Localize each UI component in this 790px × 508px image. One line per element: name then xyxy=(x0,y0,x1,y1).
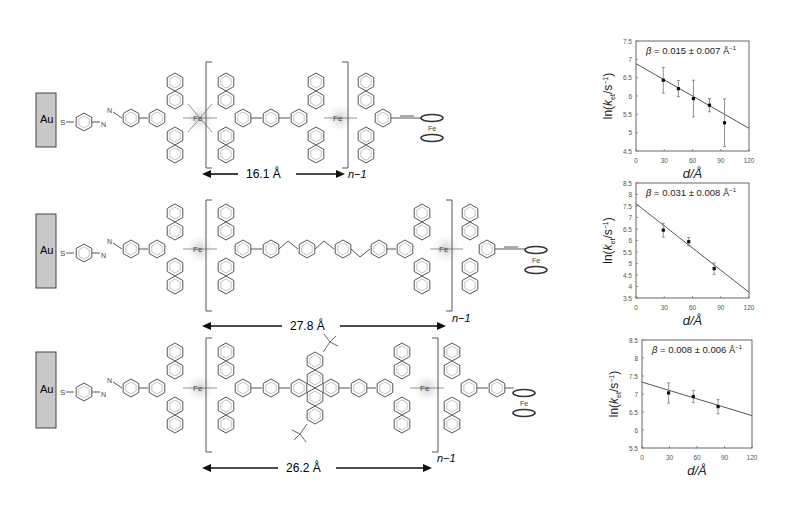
y-tick-label: 5.5 xyxy=(623,111,632,118)
chart-2: 3.544.555.566.577.588.50306090120d/Åln(k… xyxy=(601,180,755,329)
data-point xyxy=(687,240,690,243)
x-tick-label: 90 xyxy=(717,304,725,311)
chart-1: 4.555.566.577.50306090120d/Åln(ket/s−1)β… xyxy=(601,38,755,182)
y-tick-label: 3.5 xyxy=(623,295,632,302)
x-tick-label: 120 xyxy=(747,454,758,461)
x-tick-label: 60 xyxy=(689,304,697,311)
x-tick-label: 90 xyxy=(717,157,725,164)
molecule-row-2: Au S N N Fe xyxy=(36,200,547,333)
y-tick-label: 6.5 xyxy=(623,74,632,81)
y-tick-label: 6 xyxy=(628,93,632,100)
molecular-structures: Au S N N Fe Fe xyxy=(0,0,600,508)
data-point xyxy=(708,104,711,107)
y-tick-label: 6 xyxy=(634,427,638,434)
y-tick-label: 8 xyxy=(634,355,638,362)
azo-n-2: N xyxy=(107,107,112,114)
plot-frame xyxy=(636,183,749,298)
data-point xyxy=(692,97,695,100)
y-tick-label: 6.5 xyxy=(623,226,632,233)
x-tick-label: 120 xyxy=(744,157,755,164)
y-tick-label: 7 xyxy=(634,391,638,398)
molecule-row-1: Au S N N Fe Fe xyxy=(36,62,443,181)
x-tick-label: 90 xyxy=(721,454,729,461)
beta-annotation: β = 0.008 ± 0.006 Å−1 xyxy=(651,344,743,355)
iron-center-1: Fe xyxy=(193,384,203,393)
sulfur-label: S xyxy=(60,118,65,127)
iron-center-1: Fe xyxy=(193,245,203,254)
sulfur-label: S xyxy=(60,249,65,258)
electrode-label: Au xyxy=(40,244,53,256)
chart-3: 5.566.577.588.50306090120d/Åln(ket/s−1)β… xyxy=(607,337,758,479)
molecule-row-3: Au S N N Fe xyxy=(36,334,535,475)
y-axis-label: ln(ket/s−1) xyxy=(601,73,616,120)
y-tick-label: 8 xyxy=(628,191,632,198)
x-tick-label: 30 xyxy=(666,454,674,461)
electrode-label: Au xyxy=(40,113,53,125)
azo-n-2: N xyxy=(107,238,112,245)
x-tick-label: 30 xyxy=(661,304,669,311)
beta-annotation: β = 0.015 ± 0.007 Å−1 xyxy=(645,45,737,56)
data-point xyxy=(713,267,716,270)
y-tick-label: 6 xyxy=(628,237,632,244)
data-point xyxy=(662,229,665,232)
x-tick-label: 60 xyxy=(693,454,701,461)
electrode-label: Au xyxy=(40,383,53,395)
y-tick-label: 4.5 xyxy=(623,148,632,155)
data-point xyxy=(692,395,695,398)
y-tick-label: 5 xyxy=(628,129,632,136)
y-tick-label: 8.5 xyxy=(629,337,638,344)
distance-label: 26.2 Å xyxy=(286,460,321,475)
x-axis-label: d/Å xyxy=(683,166,703,181)
y-tick-label: 4.5 xyxy=(623,272,632,279)
fit-line xyxy=(642,382,752,415)
y-tick-label: 7.5 xyxy=(623,203,632,210)
azo-n-1: N xyxy=(101,121,106,128)
ferrocene-fe-label: Fe xyxy=(532,257,540,264)
data-point xyxy=(667,391,670,394)
y-tick-label: 7.5 xyxy=(623,38,632,45)
ferrocene-fe-label: Fe xyxy=(520,400,528,407)
beta-annotation: β = 0.031 ± 0.008 Å−1 xyxy=(645,187,737,198)
distance-label: 16.1 Å xyxy=(246,166,281,181)
x-axis-label: d/Å xyxy=(687,463,707,478)
x-tick-label: 0 xyxy=(640,454,644,461)
x-tick-label: 0 xyxy=(634,157,638,164)
distance-label: 27.8 Å xyxy=(290,318,325,333)
x-axis-label: d/Å xyxy=(683,313,703,328)
y-axis-label: ln(ket/s−1) xyxy=(607,371,622,418)
fit-line xyxy=(636,64,749,129)
y-axis-label: ln(ket/s−1) xyxy=(601,217,616,264)
y-tick-label: 8.5 xyxy=(623,180,632,187)
data-point xyxy=(677,87,680,90)
repeat-label: n−1 xyxy=(348,168,367,180)
data-point xyxy=(723,121,726,124)
iron-center-2: Fe xyxy=(333,114,343,123)
iron-center-2: Fe xyxy=(439,245,449,254)
sulfur-label: S xyxy=(60,388,65,397)
fit-line xyxy=(636,204,749,293)
data-point xyxy=(662,79,665,82)
plot-frame xyxy=(642,340,752,448)
x-tick-label: 0 xyxy=(634,304,638,311)
azo-n-1: N xyxy=(101,252,106,259)
x-tick-label: 120 xyxy=(744,304,755,311)
azo-n-2: N xyxy=(107,377,112,384)
iron-center-2: Fe xyxy=(420,384,430,393)
y-tick-label: 7.5 xyxy=(629,373,638,380)
y-tick-label: 6.5 xyxy=(629,409,638,416)
y-tick-label: 7 xyxy=(628,214,632,221)
y-tick-label: 5.5 xyxy=(629,445,638,452)
y-tick-label: 5 xyxy=(628,260,632,267)
azo-n-1: N xyxy=(101,391,106,398)
repeat-label: n−1 xyxy=(452,312,471,324)
y-tick-label: 4 xyxy=(628,283,632,290)
y-tick-label: 7 xyxy=(628,56,632,63)
x-tick-label: 60 xyxy=(689,157,697,164)
x-tick-label: 30 xyxy=(661,157,669,164)
ferrocene-fe-label: Fe xyxy=(428,125,436,132)
charts-panel: 4.555.566.577.50306090120d/Åln(ket/s−1)β… xyxy=(590,0,790,508)
repeat-label: n−1 xyxy=(437,452,456,464)
y-tick-label: 5.5 xyxy=(623,249,632,256)
data-point xyxy=(716,405,719,408)
